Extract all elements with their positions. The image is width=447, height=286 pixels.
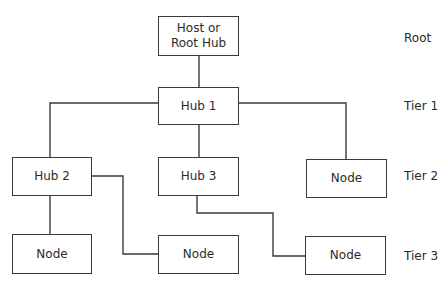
usb-topology-diagram: Host or Root Hub Hub 1 Hub 2 Hub 3 Node …	[0, 0, 447, 286]
tier-2-node-box: Node	[306, 159, 387, 198]
edge-hub1-tier2-node	[239, 103, 346, 159]
edge-hub2-tier3-middle-node	[92, 176, 158, 254]
hub-3-box: Hub 3	[158, 157, 239, 196]
hub-1-label: Hub 1	[181, 99, 217, 114]
tier-3-right-node-box: Node	[305, 236, 386, 275]
tier-3-middle-node-label: Node	[183, 247, 214, 262]
tier-label-root: Root	[404, 31, 431, 45]
tier-2-node-label: Node	[331, 171, 362, 186]
hub-2-box: Hub 2	[12, 157, 92, 196]
root-hub-box: Host or Root Hub	[158, 16, 239, 56]
edge-hub1-hub2	[50, 103, 158, 157]
tier-label-tier-3: Tier 3	[404, 249, 438, 263]
tier-label-tier-2: Tier 2	[404, 169, 438, 183]
hub-3-label: Hub 3	[181, 169, 217, 184]
tier-3-middle-node-box: Node	[158, 235, 239, 274]
hub-2-label: Hub 2	[34, 169, 70, 184]
tier-3-left-node-label: Node	[36, 247, 67, 262]
hub-1-box: Hub 1	[158, 87, 239, 125]
tier-3-left-node-box: Node	[12, 234, 92, 274]
tier-label-tier-1: Tier 1	[404, 99, 438, 113]
tier-3-right-node-label: Node	[330, 248, 361, 263]
root-hub-label: Host or Root Hub	[171, 21, 226, 51]
